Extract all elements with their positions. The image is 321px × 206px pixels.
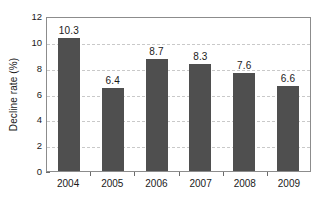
bar-value-label: 8.7 bbox=[149, 46, 164, 57]
bar-slot: 10.3 bbox=[47, 18, 91, 171]
x-axis-tick-label: 2006 bbox=[134, 177, 178, 191]
bar[interactable]: 7.6 bbox=[233, 73, 255, 171]
x-axis-tick-label: 2009 bbox=[267, 177, 311, 191]
bar[interactable]: 8.3 bbox=[189, 64, 211, 171]
bar-value-label: 7.6 bbox=[237, 60, 252, 71]
bars-layer: 10.36.48.78.37.66.6 bbox=[47, 18, 310, 171]
x-axis-tick-label: 2004 bbox=[46, 177, 90, 191]
chart-figure: Decline rate (%) 024681012 10.36.48.78.3… bbox=[0, 0, 321, 206]
bar-value-label: 10.3 bbox=[59, 25, 79, 36]
bar[interactable]: 8.7 bbox=[146, 59, 168, 171]
plot-area: 10.36.48.78.37.66.6 bbox=[46, 17, 311, 172]
x-axis-tick-mark bbox=[90, 172, 91, 176]
y-axis-tick-label: 12 bbox=[22, 11, 42, 23]
y-axis-title: Decline rate (%) bbox=[6, 17, 20, 172]
bar-value-label: 6.6 bbox=[281, 73, 296, 84]
bar[interactable]: 6.4 bbox=[102, 88, 124, 171]
x-axis-tick-mark bbox=[267, 172, 268, 176]
y-axis-tick-label: 6 bbox=[22, 89, 42, 101]
bar-slot: 8.7 bbox=[135, 18, 179, 171]
x-axis-tick-label: 2007 bbox=[179, 177, 223, 191]
bar[interactable]: 6.6 bbox=[277, 86, 299, 171]
y-axis-tick-label: 2 bbox=[22, 140, 42, 152]
x-axis-tick-mark bbox=[179, 172, 180, 176]
y-axis-tick-label: 10 bbox=[22, 37, 42, 49]
x-axis-tick-labels: 200420052006200720082009 bbox=[46, 177, 311, 191]
x-axis-tick-label: 2005 bbox=[90, 177, 134, 191]
bar-slot: 6.4 bbox=[91, 18, 135, 171]
y-axis-tick-label: 4 bbox=[22, 114, 42, 126]
x-axis-tick-marks bbox=[46, 172, 311, 176]
x-axis-tick-mark bbox=[134, 172, 135, 176]
bar-slot: 7.6 bbox=[222, 18, 266, 171]
bar-value-label: 8.3 bbox=[193, 51, 208, 62]
y-axis-tick-label: 8 bbox=[22, 63, 42, 75]
y-axis-tick-label: 0 bbox=[22, 166, 42, 178]
bar-slot: 8.3 bbox=[178, 18, 222, 171]
bar-slot: 6.6 bbox=[266, 18, 310, 171]
y-axis-tick-labels: 024681012 bbox=[22, 17, 42, 172]
x-axis-tick-mark bbox=[223, 172, 224, 176]
bar-value-label: 6.4 bbox=[105, 75, 120, 86]
bar[interactable]: 10.3 bbox=[58, 38, 80, 171]
x-axis-tick-label: 2008 bbox=[223, 177, 267, 191]
